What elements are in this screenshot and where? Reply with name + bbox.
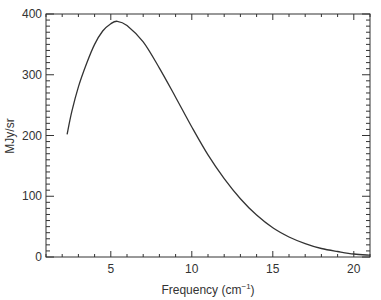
y-tick-label: 300 [22, 68, 42, 82]
axis-ticks [46, 14, 370, 257]
y-tick-label: 400 [22, 7, 42, 21]
y-axis-label: MJy/sr [3, 118, 17, 153]
x-tick-label: 15 [266, 262, 280, 276]
x-tick-label: 10 [185, 262, 199, 276]
y-tick-label: 100 [22, 189, 42, 203]
plot-frame [46, 14, 370, 257]
y-tick-label: 200 [22, 129, 42, 143]
x-tick-label: 20 [347, 262, 361, 276]
x-tick-label: 5 [107, 262, 114, 276]
x-axis-label: Frequency (cm−1) [161, 282, 254, 297]
line-chart: 51015200100200300400 Frequency (cm−1) MJ… [0, 0, 381, 300]
tick-labels: 51015200100200300400 [22, 7, 361, 276]
spectrum-line [67, 21, 370, 255]
y-tick-label: 0 [35, 250, 42, 264]
